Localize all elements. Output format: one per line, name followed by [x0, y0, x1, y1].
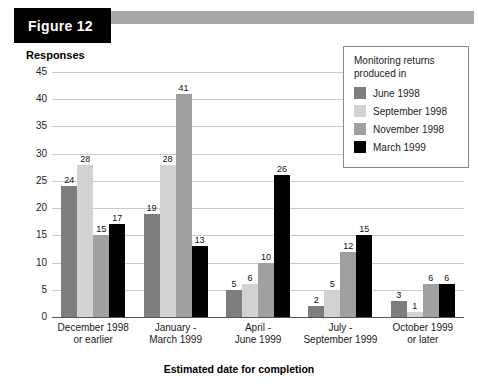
x-axis-category-line: October 1999 [392, 322, 453, 333]
legend-entries: June 1998September 1998November 1998Marc… [354, 87, 460, 153]
figure-tag: Figure 12 [14, 8, 111, 43]
bar-group: 24281517 [52, 72, 134, 317]
x-axis-category-label: October 1999or later [375, 322, 471, 346]
x-axis-line [52, 317, 464, 318]
legend-entry: June 1998 [354, 87, 460, 99]
legend-label: June 1998 [373, 88, 420, 99]
y-axis-tick-label: 35 [26, 120, 47, 131]
bar-value-label: 28 [158, 154, 178, 164]
x-axis-category-line: June 1999 [235, 334, 282, 345]
bar [423, 284, 439, 317]
bar-value-label: 6 [437, 273, 457, 283]
bar [258, 263, 274, 317]
legend-label: September 1998 [373, 106, 447, 117]
bar-value-label: 6 [240, 273, 260, 283]
x-axis-title: Estimated date for completion [0, 363, 478, 375]
legend-title-line2: produced in [354, 68, 406, 79]
bar [226, 290, 242, 317]
bar [176, 94, 192, 317]
x-axis-category-line: or earlier [73, 334, 112, 345]
bar [144, 214, 160, 317]
bar [77, 165, 93, 317]
x-axis-category-line: July - [328, 322, 352, 333]
bar [93, 235, 109, 317]
bar-value-label: 12 [338, 241, 358, 251]
bar-value-label: 24 [59, 175, 79, 185]
bar-group: 19284113 [134, 72, 216, 317]
x-axis-category-line: January - [155, 322, 197, 333]
bar [192, 246, 208, 317]
bar-value-label: 5 [322, 279, 342, 289]
figure-tag-label: Figure 12 [28, 18, 93, 34]
bar-value-label: 3 [389, 290, 409, 300]
bar [308, 306, 324, 317]
legend-entry: November 1998 [354, 123, 460, 135]
bar [274, 175, 290, 317]
y-axis-tick-label: 15 [26, 229, 47, 240]
bar-value-label: 19 [142, 203, 162, 213]
chart-legend: Monitoring returns produced in June 1998… [343, 46, 469, 168]
bar [242, 284, 258, 317]
y-axis-tick-label: 10 [26, 257, 47, 268]
legend-swatch [354, 141, 366, 153]
header-accent-band [105, 11, 474, 24]
bar [160, 165, 176, 317]
y-axis-tick-label: 25 [26, 175, 47, 186]
bar-value-label: 26 [272, 164, 292, 174]
y-axis-tick-label: 20 [26, 202, 47, 213]
bar-value-label: 28 [75, 154, 95, 164]
legend-swatch [354, 105, 366, 117]
bar [324, 290, 340, 317]
x-axis-category-line: or later [407, 334, 438, 345]
y-axis-tick-label: 5 [26, 284, 47, 295]
legend-swatch [354, 87, 366, 99]
bar [109, 224, 125, 317]
legend-entry: March 1999 [354, 141, 460, 153]
x-axis-category-line: September 1999 [303, 334, 377, 345]
bar-value-label: 2 [306, 295, 326, 305]
bar-value-label: 1 [405, 301, 425, 311]
x-axis-category-line: March 1999 [149, 334, 202, 345]
legend-entry: September 1998 [354, 105, 460, 117]
legend-swatch [354, 123, 366, 135]
bar-value-label: 41 [174, 83, 194, 93]
y-axis-title: Responses [26, 49, 85, 61]
bar-value-label: 10 [256, 252, 276, 262]
y-axis-tick-label: 30 [26, 148, 47, 159]
y-axis-tick-label: 45 [26, 66, 47, 77]
legend-label: March 1999 [373, 142, 426, 153]
x-axis-category-line: December 1998 [58, 322, 129, 333]
bar [61, 186, 77, 317]
bar-value-label: 15 [354, 224, 374, 234]
bar [340, 252, 356, 317]
y-axis-tick-label: 0 [26, 311, 47, 322]
bar-value-label: 13 [190, 235, 210, 245]
legend-title-line1: Monitoring returns [354, 55, 435, 66]
bar [356, 235, 372, 317]
y-axis-tick-label: 40 [26, 93, 47, 104]
bar [439, 284, 455, 317]
bar [407, 312, 423, 317]
bar-value-label: 15 [91, 224, 111, 234]
bar-value-label: 17 [107, 213, 127, 223]
legend-title: Monitoring returns produced in [354, 55, 460, 80]
bar-group: 561026 [217, 72, 299, 317]
x-axis-category-line: April - [245, 322, 271, 333]
legend-label: November 1998 [373, 124, 444, 135]
